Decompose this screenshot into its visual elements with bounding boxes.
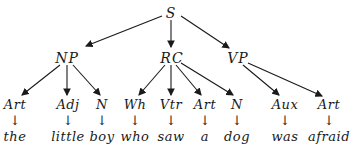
leaf-category: Art xyxy=(4,97,26,112)
leaf-word: saw xyxy=(157,129,184,144)
leaf-word: afraid xyxy=(308,129,350,144)
down-arrow-icon: ↓ xyxy=(166,113,177,128)
leaf-category: N xyxy=(231,97,243,112)
down-arrow-icon: ↓ xyxy=(97,113,108,128)
down-arrow-icon: ↓ xyxy=(232,113,243,128)
down-arrow-icon: ↓ xyxy=(200,113,211,128)
leaf-word: little xyxy=(51,129,85,144)
leaf-word: a xyxy=(201,129,209,144)
leaf-category: N xyxy=(96,97,108,112)
leaf-word: who xyxy=(121,129,150,144)
leaf-category: Aux xyxy=(272,97,299,112)
down-arrow-icon: ↓ xyxy=(130,113,141,128)
leaf-word: the xyxy=(4,129,27,144)
leaf-category: Art xyxy=(318,97,340,112)
leaf-category: Adj xyxy=(56,97,79,112)
node-vp: VP xyxy=(227,50,249,66)
leaf-word: boy xyxy=(90,129,115,144)
leaf-category: Vtr xyxy=(160,97,182,112)
node-s: S xyxy=(166,5,177,21)
leaf-category: Wh xyxy=(124,97,147,112)
node-rc: RC xyxy=(160,50,183,66)
tree-edges xyxy=(0,0,357,149)
leaf-word: was xyxy=(271,129,298,144)
leaf-category: Art xyxy=(194,97,216,112)
down-arrow-icon: ↓ xyxy=(10,113,21,128)
down-arrow-icon: ↓ xyxy=(63,113,74,128)
down-arrow-icon: ↓ xyxy=(324,113,335,128)
leaf-word: dog xyxy=(224,129,250,144)
down-arrow-icon: ↓ xyxy=(280,113,291,128)
node-np: NP xyxy=(55,50,79,66)
